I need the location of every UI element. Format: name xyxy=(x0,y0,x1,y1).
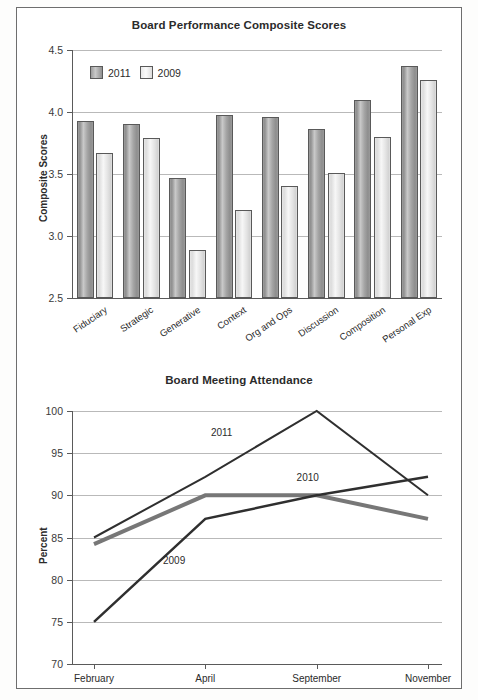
bar-chart-plot-area: 2.53.03.54.04.5FiduciaryStrategicGenerat… xyxy=(72,50,442,298)
bar-y-tick-label: 3.5 xyxy=(48,168,63,180)
bar-gridline xyxy=(72,50,442,51)
line-series-label-2009: 2009 xyxy=(163,555,185,566)
bar-2009-strategic xyxy=(143,138,160,298)
bar-2009-generative xyxy=(189,250,206,298)
line-series-2011 xyxy=(94,411,428,538)
line-x-tick-mark xyxy=(205,664,206,669)
bar-2011-generative xyxy=(169,178,186,298)
line-series-label-2011: 2011 xyxy=(211,427,233,438)
bar-y-tick-mark xyxy=(67,298,72,299)
bar-2011-composition xyxy=(354,100,371,298)
line-chart-plot-area: 707580859095100201120102009FebruaryApril… xyxy=(72,411,442,664)
line-series-2009 xyxy=(94,477,428,622)
line-chart-series-svg xyxy=(72,411,442,664)
bar-2011-org-and-ops xyxy=(262,117,279,298)
line-chart-y-axis-label: Percent xyxy=(38,527,49,564)
bar-2009-fiduciary xyxy=(96,153,113,298)
bar-2009-composition xyxy=(374,137,391,298)
bar-x-tick-label-strategic: Strategic xyxy=(67,304,156,369)
line-y-tick-label: 80 xyxy=(51,574,63,586)
bar-2009-context xyxy=(235,210,252,298)
bar-chart-title: Board Performance Composite Scores xyxy=(16,19,462,31)
bar-gridline xyxy=(72,298,442,299)
line-y-tick-label: 95 xyxy=(51,447,63,459)
line-y-tick-label: 100 xyxy=(45,405,63,417)
bar-x-tick-label-composition: Composition xyxy=(298,304,387,369)
bar-y-tick-label: 4.0 xyxy=(48,106,63,118)
line-x-tick-label-february: February xyxy=(74,673,114,684)
bar-2011-fiduciary xyxy=(77,121,94,298)
bar-2011-context xyxy=(216,115,233,299)
bar-y-axis xyxy=(72,50,73,298)
line-x-tick-mark xyxy=(94,664,95,669)
bar-2011-discussion xyxy=(308,129,325,298)
line-y-tick-mark xyxy=(67,664,72,665)
bar-2011-personal-exp xyxy=(401,66,418,298)
bar-y-tick-label: 2.5 xyxy=(48,292,63,304)
bar-x-tick-label-context: Context xyxy=(159,304,248,369)
line-series-label-2010: 2010 xyxy=(297,472,319,483)
line-y-tick-label: 70 xyxy=(51,658,63,670)
bar-chart-legend: 20112009 xyxy=(90,66,181,79)
line-y-tick-label: 75 xyxy=(51,616,63,628)
bar-gridline xyxy=(72,112,442,113)
legend-swatch-2011 xyxy=(90,66,103,79)
figure-page: Board Performance Composite Scores Compo… xyxy=(0,0,478,700)
legend-label-2011: 2011 xyxy=(108,67,131,79)
bar-x-tick-label-personal-exp: Personal Exp xyxy=(344,304,433,369)
line-gridline xyxy=(72,664,442,665)
legend-item-2009: 2009 xyxy=(140,66,181,79)
legend-swatch-2009 xyxy=(140,66,153,79)
line-y-tick-label: 85 xyxy=(51,532,63,544)
bar-x-tick-label-generative: Generative xyxy=(113,304,202,369)
bar-y-tick-label: 3.0 xyxy=(48,230,63,242)
line-x-tick-label-november: November xyxy=(405,673,451,684)
bar-2009-personal-exp xyxy=(420,80,437,298)
line-y-tick-label: 90 xyxy=(51,489,63,501)
line-series-2010 xyxy=(94,495,428,544)
bar-y-tick-label: 4.5 xyxy=(48,44,63,56)
line-x-tick-mark xyxy=(317,664,318,669)
bar-2009-org-and-ops xyxy=(281,186,298,298)
legend-label-2009: 2009 xyxy=(158,67,181,79)
bar-x-tick-label-discussion: Discussion xyxy=(251,304,340,369)
line-chart-title: Board Meeting Attendance xyxy=(16,374,462,386)
bar-2011-strategic xyxy=(123,124,140,298)
line-x-tick-label-september: September xyxy=(292,673,341,684)
line-x-tick-label-april: April xyxy=(195,673,215,684)
legend-item-2011: 2011 xyxy=(90,66,131,79)
bar-chart-board-performance: Board Performance Composite Scores Compo… xyxy=(16,7,462,362)
bar-2009-discussion xyxy=(328,173,345,298)
line-x-tick-mark xyxy=(428,664,429,669)
line-chart-board-attendance: Board Meeting Attendance Percent 7075808… xyxy=(16,362,462,689)
bar-chart-y-axis-label: Composite Scores xyxy=(38,134,49,222)
